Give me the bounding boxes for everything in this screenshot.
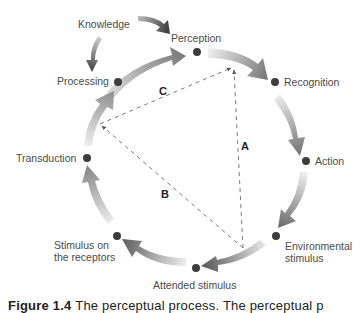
dot-processing — [114, 78, 122, 86]
arrow-recognition-to-action — [274, 94, 305, 156]
arrow-perception-to-recognition — [208, 48, 268, 80]
label-receptors-line1: Stimulus on — [54, 239, 109, 251]
label-perception: Perception — [171, 32, 221, 44]
arrow-action-to-environmental — [278, 172, 308, 228]
node-dots — [83, 48, 310, 272]
label-relationship-c: C — [159, 85, 167, 97]
caption-text: The perceptual process. The perceptual p — [75, 298, 323, 313]
label-receptors-line2: the receptors — [54, 251, 115, 263]
label-environmental-line2: stimulus — [285, 252, 324, 264]
label-environmental-line1: Environmental — [285, 240, 352, 252]
label-action: Action — [315, 155, 344, 167]
arrow-receptors-to-transduction — [82, 165, 114, 224]
arrow-attended-to-receptors — [122, 239, 186, 266]
arrow-knowledge-to-processing — [86, 36, 102, 72]
dot-action — [302, 157, 310, 165]
label-relationship-b: B — [161, 188, 169, 200]
dot-environmental — [272, 232, 280, 240]
label-processing: Processing — [57, 75, 109, 87]
dot-receptors — [113, 232, 121, 240]
label-relationship-a: A — [241, 140, 249, 152]
line-b — [102, 126, 243, 248]
relationship-lines — [100, 68, 243, 248]
dot-recognition — [271, 78, 279, 86]
label-recognition: Recognition — [284, 76, 339, 88]
caption-figure-label: Figure 1.4 — [8, 298, 71, 313]
label-transduction: Transduction — [16, 152, 76, 164]
arrow-environmental-to-attended — [201, 240, 266, 272]
line-a — [234, 70, 243, 248]
dot-attended — [192, 264, 200, 272]
label-attended: Attended stimulus — [153, 279, 236, 291]
dot-perception — [193, 48, 201, 56]
arrow-knowledge-to-perception — [138, 16, 170, 34]
figure-caption: Figure 1.4 The perceptual process. The p… — [8, 298, 324, 313]
dot-transduction — [83, 154, 91, 162]
label-knowledge: Knowledge — [78, 18, 130, 30]
arrow-transduction-to-processing — [84, 91, 114, 146]
